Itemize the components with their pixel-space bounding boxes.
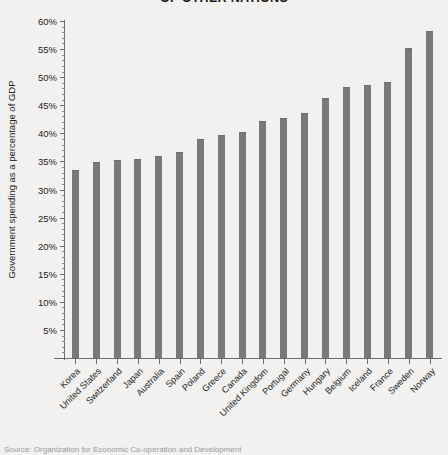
x-axis-tick-label: Belgium xyxy=(205,366,353,455)
x-axis-tick-label: Sweden xyxy=(267,366,415,455)
bar xyxy=(72,170,79,358)
x-axis-tick-label: Canada xyxy=(101,366,249,455)
x-axis-tick-label: United Kingdom xyxy=(121,366,269,455)
y-axis-tick-label: 10% xyxy=(38,296,57,307)
x-axis-tick-label: France xyxy=(246,366,394,455)
bar xyxy=(239,132,246,358)
bar xyxy=(197,139,204,358)
x-axis-tick xyxy=(200,359,201,364)
y-axis-tick-label: 55% xyxy=(38,44,57,55)
x-axis-tick-label: Greece xyxy=(80,366,228,455)
bar xyxy=(405,48,412,358)
x-axis-tick-label: Iceland xyxy=(226,366,374,455)
bar xyxy=(301,113,308,358)
y-axis-tick-label: 30% xyxy=(38,184,57,195)
x-axis-tick xyxy=(75,359,76,364)
bar xyxy=(218,135,225,358)
bar xyxy=(280,118,287,358)
x-axis-tick xyxy=(430,359,431,364)
x-axis-tick xyxy=(138,359,139,364)
x-axis-tick-label: Germany xyxy=(163,366,311,455)
x-axis-line xyxy=(54,358,442,359)
x-axis-tick-label: Norway xyxy=(288,366,436,455)
x-axis-tick xyxy=(367,359,368,364)
bar xyxy=(176,152,183,358)
bar xyxy=(426,31,433,358)
bar xyxy=(259,121,266,358)
x-axis-tick xyxy=(117,359,118,364)
y-axis-tick-label: 40% xyxy=(38,128,57,139)
x-axis-tick xyxy=(325,359,326,364)
x-axis-tick xyxy=(346,359,347,364)
x-axis-tick-label: Hungary xyxy=(184,366,332,455)
bar xyxy=(322,98,329,358)
x-axis-tick xyxy=(305,359,306,364)
x-axis-tick xyxy=(159,359,160,364)
chart-title: OF OTHER NATIONS xyxy=(0,0,448,5)
bar xyxy=(155,156,162,358)
bar xyxy=(114,160,121,358)
y-axis-tick-label: 25% xyxy=(38,212,57,223)
x-axis-tick xyxy=(180,359,181,364)
x-axis-tick xyxy=(388,359,389,364)
y-axis-tick-label: 60% xyxy=(38,16,57,27)
y-axis-tick-label: 35% xyxy=(38,156,57,167)
x-axis-tick xyxy=(284,359,285,364)
x-axis-tick xyxy=(263,359,264,364)
bar xyxy=(343,87,350,358)
y-axis-tick-label: 45% xyxy=(38,100,57,111)
source-note: Source: Organization for Economic Co-ope… xyxy=(4,445,241,454)
plot-area xyxy=(65,21,440,358)
x-axis-tick xyxy=(221,359,222,364)
bar xyxy=(134,159,141,358)
y-axis-tick-label: 5% xyxy=(43,324,57,335)
x-axis-tick-label: Poland xyxy=(59,366,207,455)
y-axis-tick-label: 50% xyxy=(38,72,57,83)
x-axis-tick xyxy=(242,359,243,364)
y-axis-tick-label: 20% xyxy=(38,240,57,251)
y-axis-ticks: 60%55%50%45%40%35%30%25%20%15%10%5% xyxy=(0,0,65,380)
bar xyxy=(93,162,100,358)
x-axis-tick xyxy=(96,359,97,364)
bar xyxy=(364,85,371,358)
x-axis-tick xyxy=(409,359,410,364)
y-axis-tick-label: 15% xyxy=(38,268,57,279)
x-axis-tick-label: Portugal xyxy=(142,366,290,455)
bar xyxy=(384,82,391,358)
